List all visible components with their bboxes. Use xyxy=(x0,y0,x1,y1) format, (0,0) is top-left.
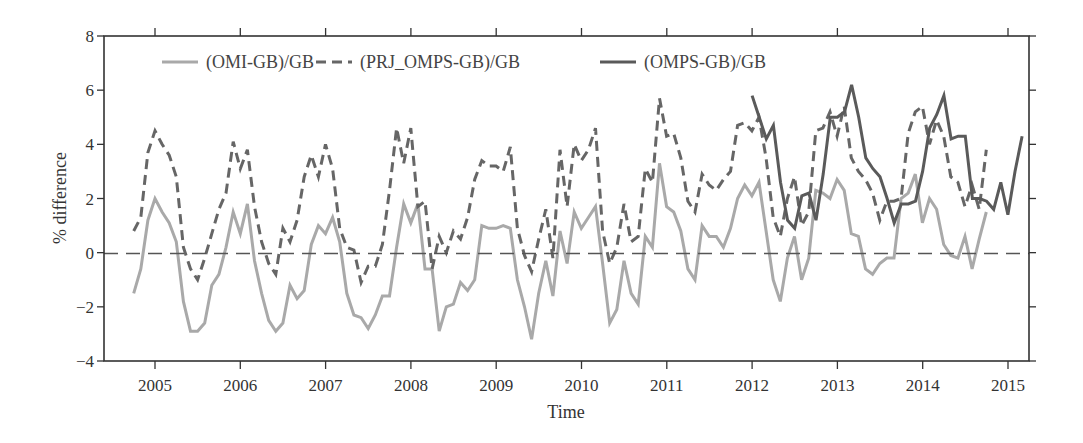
x-tick-label: 2013 xyxy=(820,376,854,395)
series-prj-omps-gb xyxy=(134,98,987,282)
legend: (OMI-GB)/GB (PRJ_OMPS-GB)/GB (OMPS-GB)/G… xyxy=(162,52,766,73)
x-tick-label: 2011 xyxy=(650,376,683,395)
x-tick-label: 2010 xyxy=(565,376,599,395)
y-tick-label: −4 xyxy=(76,352,95,371)
legend-label: (OMPS-GB)/GB xyxy=(644,52,766,73)
series-omps-gb xyxy=(752,85,1022,229)
x-tick-label: 2006 xyxy=(223,376,257,395)
series-layer xyxy=(134,85,1022,339)
x-tick-label: 2009 xyxy=(479,376,513,395)
y-tick-label: 8 xyxy=(86,27,95,46)
series-omi-gb xyxy=(134,163,987,339)
legend-label: (OMI-GB)/GB xyxy=(206,52,314,73)
x-axis-title: Time xyxy=(547,402,584,422)
y-tick-label: 6 xyxy=(86,81,95,100)
x-tick-label: 2005 xyxy=(138,376,172,395)
y-tick-label: 4 xyxy=(86,135,95,154)
x-tick-label: 2015 xyxy=(991,376,1025,395)
x-tick-label: 2008 xyxy=(394,376,428,395)
legend-item-omps: (OMPS-GB)/GB xyxy=(600,52,766,73)
x-tick-label: 2014 xyxy=(906,376,941,395)
y-axis-title: % difference xyxy=(50,152,70,244)
chart: −4−202468 200520062007200820092010201120… xyxy=(0,0,1083,443)
x-tick-label: 2007 xyxy=(309,376,344,395)
legend-label: (PRJ_OMPS-GB)/GB xyxy=(360,52,520,73)
y-tick-label: 2 xyxy=(86,190,95,209)
legend-item-prj-omps: (PRJ_OMPS-GB)/GB xyxy=(316,52,520,73)
legend-item-omi: (OMI-GB)/GB xyxy=(162,52,314,73)
y-tick-label: 0 xyxy=(86,244,95,263)
x-tick-label: 2012 xyxy=(735,376,769,395)
y-tick-label: −2 xyxy=(76,298,94,317)
